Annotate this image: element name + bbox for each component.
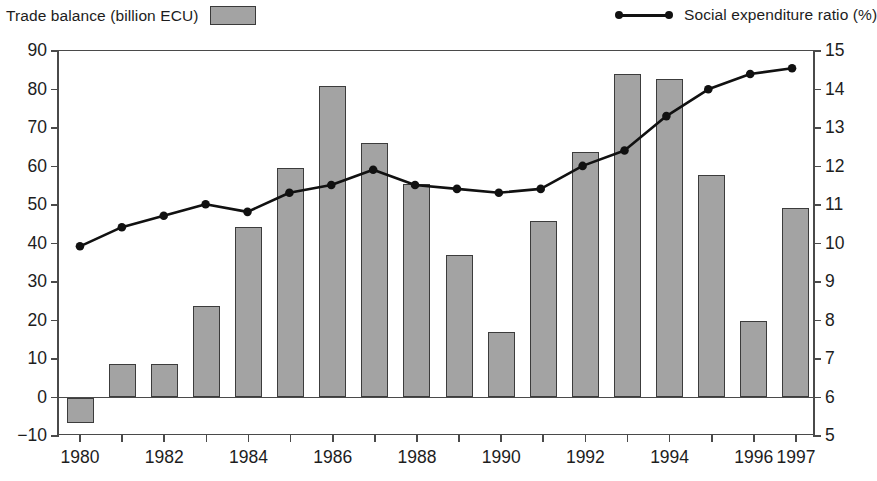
right-axis-tick-label: 8	[825, 312, 835, 330]
right-axis-tick	[813, 166, 821, 168]
bottom-axis-tick	[121, 434, 123, 442]
right-axis-tick-label: 9	[825, 273, 835, 291]
bottom-axis-tick	[500, 434, 502, 442]
left-axis-tick	[51, 243, 59, 245]
bottom-axis-tick-label: 1980	[61, 447, 100, 468]
bottom-axis-tick-label: 1982	[145, 447, 184, 468]
bottom-axis-tick	[248, 434, 250, 442]
line-marker	[704, 85, 713, 94]
left-axis-tick	[51, 127, 59, 129]
bottom-axis-tick-label: 1994	[650, 447, 689, 468]
bottom-axis-tick-label: 1997	[776, 447, 815, 468]
bottom-axis-tick	[458, 434, 460, 442]
line-marker	[369, 165, 378, 174]
left-axis-tick-label: 60	[28, 158, 47, 176]
bottom-axis-tick	[669, 434, 671, 442]
line-series-markers	[76, 64, 797, 251]
right-axis-tick-label: 15	[825, 42, 844, 60]
line-with-dots-symbol-icon	[613, 7, 675, 24]
left-axis-tick	[51, 358, 59, 360]
right-axis-tick	[813, 89, 821, 91]
bottom-axis-tick	[795, 434, 797, 442]
line-marker	[453, 185, 462, 194]
line-marker	[662, 112, 671, 121]
bottom-axis-tick-label: 1984	[229, 447, 268, 468]
line-marker	[118, 223, 127, 232]
line-marker	[746, 70, 755, 79]
left-axis-tick-label: 80	[28, 81, 47, 99]
bottom-axis-tick	[374, 434, 376, 442]
bottom-axis-tick	[585, 434, 587, 442]
left-axis-tick-label: 40	[28, 235, 47, 253]
gray-rectangle-swatch-icon	[210, 6, 256, 25]
line-marker	[411, 181, 420, 190]
right-axis-tick	[813, 435, 821, 437]
left-axis-tick-label: −10	[17, 427, 47, 445]
legend-label-trade-balance: Trade balance (billion ECU)	[6, 7, 199, 25]
right-axis-tick	[813, 281, 821, 283]
right-axis-tick-label: 7	[825, 350, 835, 368]
left-axis-tick-label: 10	[28, 350, 47, 368]
line-marker	[159, 211, 168, 220]
line-series-path	[80, 68, 792, 246]
legend-item-trade-balance: Trade balance (billion ECU)	[6, 6, 256, 25]
right-axis-tick	[813, 320, 821, 322]
right-axis-tick-label: 11	[825, 196, 843, 214]
left-axis-tick-label: 0	[37, 389, 47, 407]
right-axis-tick	[813, 397, 821, 399]
bottom-axis-tick	[206, 434, 208, 442]
bottom-axis-tick	[542, 434, 544, 442]
left-axis-tick	[51, 89, 59, 91]
plot-area: 9080706050403020100−10 15141312111098765…	[57, 50, 815, 435]
bottom-axis-tick-label: 1988	[397, 447, 436, 468]
left-axis-tick	[51, 435, 59, 437]
right-axis-tick-label: 14	[825, 81, 844, 99]
left-axis-tick	[51, 50, 59, 52]
bottom-axis-tick-label: 1992	[566, 447, 605, 468]
left-axis-tick	[51, 166, 59, 168]
right-axis-tick-label: 6	[825, 389, 835, 407]
line-marker	[285, 188, 294, 197]
legend-line-dot-right	[665, 11, 673, 19]
right-axis-tick-label: 12	[825, 158, 844, 176]
line-marker	[201, 200, 210, 209]
left-axis-tick-label: 90	[28, 42, 47, 60]
left-axis-tick-label: 70	[28, 119, 47, 137]
legend-line-segment	[617, 14, 671, 17]
right-axis-tick	[813, 50, 821, 52]
line-series-layer	[59, 51, 813, 434]
bottom-axis-tick-label: 1996	[734, 447, 773, 468]
bottom-axis-tick	[332, 434, 334, 442]
line-marker	[495, 188, 504, 197]
right-axis-tick	[813, 243, 821, 245]
left-axis-tick-label: 50	[28, 196, 47, 214]
bottom-axis-tick-label: 1986	[313, 447, 352, 468]
left-axis-tick-label: 30	[28, 273, 47, 291]
left-axis-tick	[51, 204, 59, 206]
line-marker	[327, 181, 336, 190]
left-axis-tick-label: 20	[28, 312, 47, 330]
bottom-axis-tick	[711, 434, 713, 442]
bottom-axis-tick-label: 1990	[482, 447, 521, 468]
right-axis-tick-label: 13	[825, 119, 844, 137]
bottom-axis-tick	[163, 434, 165, 442]
bottom-axis-tick	[416, 434, 418, 442]
line-marker	[76, 242, 85, 251]
bottom-axis-tick	[753, 434, 755, 442]
right-axis-tick-label: 10	[825, 235, 844, 253]
left-axis-tick	[51, 320, 59, 322]
legend-label-social-expenditure: Social expenditure ratio (%)	[684, 6, 877, 24]
legend-line-dot-left	[615, 11, 623, 19]
left-axis-tick	[51, 281, 59, 283]
right-axis-tick	[813, 358, 821, 360]
left-axis-tick	[51, 397, 59, 399]
bottom-axis-tick	[290, 434, 292, 442]
line-marker	[243, 208, 252, 217]
right-axis-tick-label: 5	[825, 427, 835, 445]
bottom-axis-tick	[79, 434, 81, 442]
legend-item-social-expenditure: Social expenditure ratio (%)	[613, 6, 877, 24]
line-marker	[620, 146, 629, 155]
line-marker	[536, 185, 545, 194]
right-axis-tick	[813, 204, 821, 206]
